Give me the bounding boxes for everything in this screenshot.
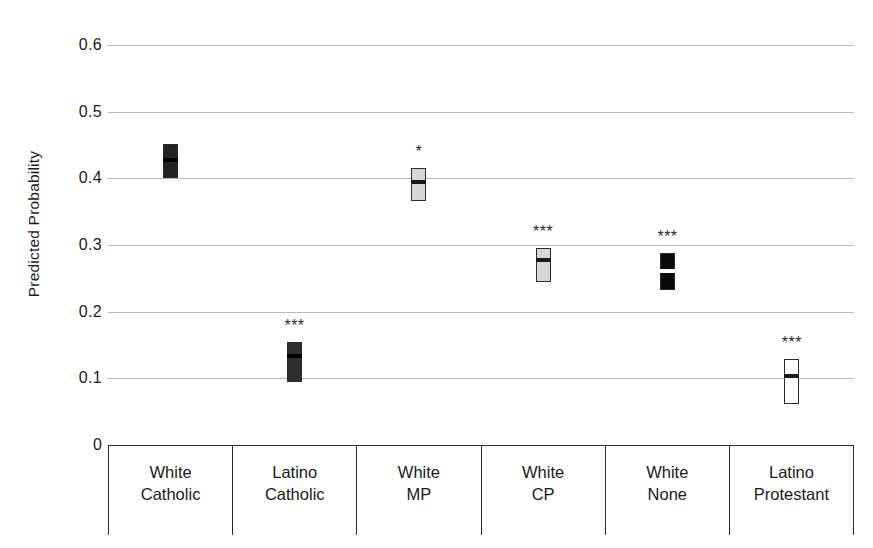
x-axis-category-cell: LatinoCatholic xyxy=(233,446,357,535)
x-axis-category-label-line: Latino xyxy=(272,462,317,484)
significance-stars: *** xyxy=(284,318,304,334)
point-estimate-marker xyxy=(411,180,426,184)
gridline xyxy=(108,312,854,313)
x-axis-category-cell: WhiteCP xyxy=(482,446,606,535)
point-estimate-marker xyxy=(660,269,675,273)
x-axis-category-label-line: MP xyxy=(407,484,432,506)
x-axis-category-label-line: Latino xyxy=(769,462,814,484)
ci-box xyxy=(784,359,799,404)
x-axis-category-cell: WhiteMP xyxy=(357,446,481,535)
y-axis-title: Predicted Probability xyxy=(25,104,43,344)
x-axis-category-label-line: CP xyxy=(532,484,555,506)
x-axis-category-label-line: Protestant xyxy=(754,484,829,506)
gridline xyxy=(108,378,854,379)
point-estimate-marker xyxy=(287,354,302,358)
confidence-interval-marker xyxy=(287,342,302,382)
significance-stars: * xyxy=(415,144,422,160)
predicted-probability-chart: Predicted Probability 0.60.50.40.30.20.1… xyxy=(0,0,873,548)
x-axis-category-label-line: White xyxy=(398,462,440,484)
gridline xyxy=(108,245,854,246)
y-axis-tick-label: 0.5 xyxy=(52,104,102,120)
confidence-interval-marker xyxy=(163,144,178,178)
y-axis-tick-label: 0.3 xyxy=(52,237,102,253)
point-estimate-marker xyxy=(163,158,178,162)
x-axis-category-label-line: White xyxy=(149,462,191,484)
y-axis-tick-label: 0.2 xyxy=(52,304,102,320)
gridline xyxy=(108,178,854,179)
confidence-interval-marker xyxy=(660,253,675,290)
x-axis-category-label-line: White xyxy=(646,462,688,484)
y-axis-tick-labels: 0.60.50.40.30.20.1 xyxy=(52,0,102,548)
significance-stars: *** xyxy=(657,229,677,245)
ci-box xyxy=(536,248,551,281)
ci-box xyxy=(287,342,302,382)
confidence-interval-marker xyxy=(536,248,551,281)
point-estimate-marker xyxy=(784,374,799,378)
x-axis-category-label-line: White xyxy=(522,462,564,484)
x-axis-category-cell: WhiteCatholic xyxy=(108,446,233,535)
ci-box xyxy=(411,168,426,201)
point-estimate-marker xyxy=(536,258,551,262)
x-axis-category-label-line: Catholic xyxy=(141,484,201,506)
y-axis-tick-label: 0.1 xyxy=(52,370,102,386)
y-axis-tick-zero: 0 xyxy=(52,437,102,453)
x-axis-category-cell: WhiteNone xyxy=(606,446,730,535)
plot-area: ************* xyxy=(108,30,854,445)
x-axis-category-table: WhiteCatholicLatinoCatholicWhiteMPWhiteC… xyxy=(108,445,854,535)
gridline xyxy=(108,112,854,113)
x-axis-category-cell: LatinoProtestant xyxy=(730,446,854,535)
y-axis-tick-label: 0.6 xyxy=(52,37,102,53)
y-axis-tick-label: 0.4 xyxy=(52,170,102,186)
x-axis-category-label-line: None xyxy=(648,484,687,506)
confidence-interval-marker xyxy=(784,359,799,404)
significance-stars: *** xyxy=(782,335,802,351)
gridline xyxy=(108,45,854,46)
significance-stars: *** xyxy=(533,224,553,240)
x-axis-category-label-line: Catholic xyxy=(265,484,325,506)
confidence-interval-marker xyxy=(411,168,426,201)
